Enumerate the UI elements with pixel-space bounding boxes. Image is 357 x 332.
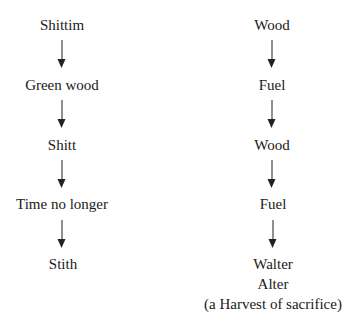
node-shitt: Shitt [48, 136, 76, 154]
node-shittim: Shittim [40, 16, 84, 34]
node-stith: Stith [49, 255, 77, 273]
node-walter: Walter [253, 255, 293, 273]
node-wood: Wood [254, 16, 289, 34]
arrow-down-icon [269, 220, 278, 248]
arrow-down-icon [58, 100, 67, 128]
node-alter: Alter [258, 275, 289, 293]
arrow-down-icon [58, 220, 67, 248]
arrow-down-icon [268, 160, 277, 188]
arrow-down-icon [268, 100, 277, 128]
node-time-no-longer: Time no longer [16, 195, 108, 213]
arrow-down-icon [268, 40, 277, 68]
arrow-down-icon [58, 40, 67, 68]
arrow-down-icon [58, 160, 67, 188]
node-wood: Wood [254, 136, 289, 154]
node-fuel: Fuel [259, 76, 286, 94]
node-green-wood: Green wood [25, 76, 99, 94]
node-fuel: Fuel [260, 195, 287, 213]
node-harvest-of-sacrifice: (a Harvest of sacrifice) [204, 295, 342, 313]
